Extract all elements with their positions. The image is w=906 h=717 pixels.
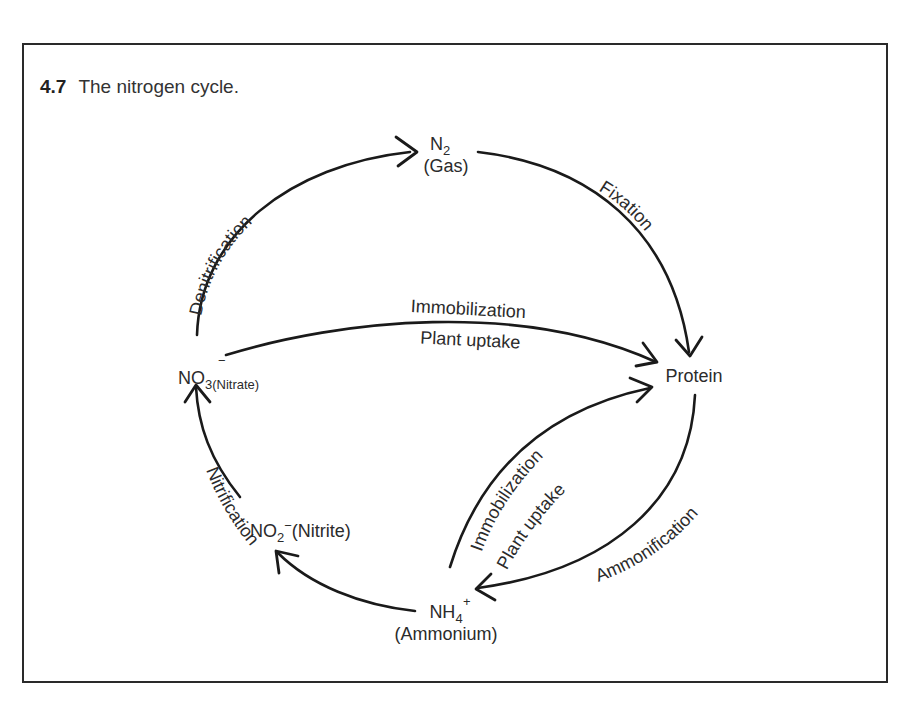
ammonium-charge: + — [463, 594, 471, 609]
node-nitrate: NO3(Nitrate) − — [178, 353, 259, 392]
node-n2: N2 (Gas) — [424, 134, 469, 176]
svg-text:NO2−(Nitrite): NO2−(Nitrite) — [250, 518, 351, 545]
nitrate-charge: − — [218, 353, 226, 368]
svg-text:NO3(Nitrate): NO3(Nitrate) — [178, 368, 259, 392]
node-nitrite: NO2−(Nitrite) — [250, 518, 351, 545]
label-nitrate-plant-uptake: Plant uptake — [420, 327, 521, 352]
svg-text:N2: N2 — [430, 134, 450, 158]
ammonium-nitrite-arc — [278, 553, 415, 611]
node-ammonium: NH4 + (Ammonium) — [394, 594, 497, 644]
label-ammonium-immobilization: Immobilization — [467, 445, 547, 553]
nitrogen-cycle-diagram: Denitrification Fixation Ammonification … — [0, 0, 906, 717]
label-nitrate-immobilization: Immobilization — [410, 296, 526, 322]
node-protein-name: Protein — [665, 366, 722, 386]
node-n2-name: (Gas) — [424, 156, 469, 176]
node-ammonium-name: (Ammonium) — [394, 624, 497, 644]
label-fixation: Fixation — [596, 177, 658, 234]
svg-text:NH4: NH4 — [429, 602, 462, 626]
label-denitrification: Denitrification — [185, 211, 255, 317]
node-protein: Protein — [665, 366, 722, 386]
fixation-arc — [478, 152, 689, 352]
edge-ammonium-to-nitrite — [276, 551, 415, 611]
